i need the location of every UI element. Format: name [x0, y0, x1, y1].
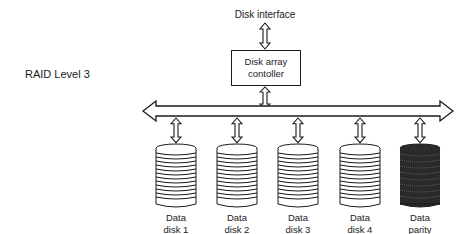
raid-diagram-graphics [0, 0, 476, 234]
controller-label-line2: contoller [248, 68, 284, 80]
disk-label-line: Data [146, 212, 206, 224]
disk-label-line: Data [207, 212, 267, 224]
interface-arrow-icon [260, 23, 270, 49]
disk-label-line: disk 3 [268, 224, 328, 234]
disk-label-line: disk 4 [330, 224, 390, 234]
disk-label-line: parity [390, 224, 450, 234]
disk-label-line: Data [330, 212, 390, 224]
disk-1-icon [156, 144, 196, 207]
disk-label-line: Data [268, 212, 328, 224]
disk-label-line: Data [390, 212, 450, 224]
disk-label-3: Data disk 3 [268, 212, 328, 234]
disk-label-2: Data disk 2 [207, 212, 267, 234]
disk-label-4: Data disk 4 [330, 212, 390, 234]
disk-label-1: Data disk 1 [146, 212, 206, 234]
disk-label-parity: Data parity bits [390, 212, 450, 234]
disk-2-icon [217, 144, 257, 207]
disk-label-line: disk 2 [207, 224, 267, 234]
parity-disk-icon [400, 144, 440, 207]
controller-label-line1: Disk array [245, 56, 288, 68]
disk-array-controller-box: Disk array contoller [231, 50, 301, 86]
disk-3-icon [278, 144, 318, 207]
disk-label-line: disk 1 [146, 224, 206, 234]
disk-4-icon [340, 144, 380, 207]
